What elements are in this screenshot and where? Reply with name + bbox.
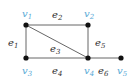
vertex-label-v1: v1 — [22, 8, 32, 21]
edges — [26, 25, 121, 58]
vertices — [23, 22, 123, 60]
edge-label-e3: e3 — [50, 43, 61, 56]
vertex-label-v3: v3 — [22, 65, 33, 78]
vertex-label-v4: v4 — [84, 65, 94, 78]
vertex-label-v5: v5 — [117, 65, 128, 78]
edge-label-e6: e6 — [98, 65, 109, 78]
vertex-v5 — [118, 55, 123, 60]
vertex-v2 — [85, 22, 90, 27]
vertex-v4 — [85, 55, 90, 60]
graph-diagram: e1e2e3e4e5e6v1v2v3v4v5 — [0, 0, 131, 81]
edge-label-e1: e1 — [8, 37, 18, 50]
vertex-v3 — [23, 55, 28, 60]
edge-label-e5: e5 — [95, 37, 106, 50]
edge-label-e4: e4 — [52, 65, 62, 78]
edge-label-e2: e2 — [52, 9, 63, 22]
vertex-label-v2: v2 — [84, 8, 95, 21]
vertex-v1 — [23, 22, 28, 27]
